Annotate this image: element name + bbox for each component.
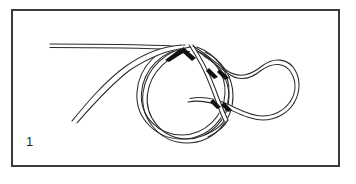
step-number-label: 1 [26, 135, 33, 148]
knot-figure: 1 [0, 0, 356, 184]
figure-border-frame [11, 9, 340, 167]
